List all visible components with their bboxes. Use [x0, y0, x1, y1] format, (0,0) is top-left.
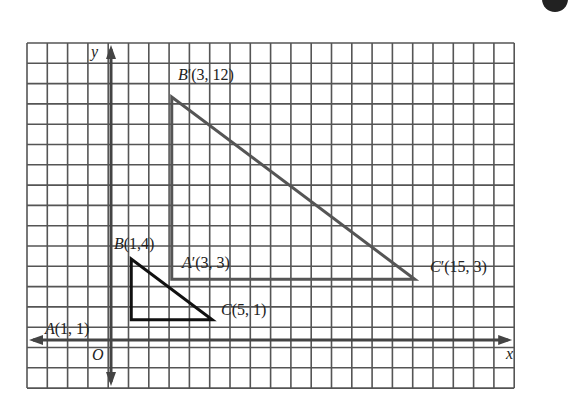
vertex-label-c: C(5, 1): [221, 302, 266, 318]
origin-label: O: [92, 347, 104, 363]
vertex-label-a: A(1, 1): [45, 321, 89, 337]
x-axis-label: x: [506, 346, 513, 362]
x-axis-arrow-left-icon: [29, 335, 43, 345]
y-axis-label: y: [91, 44, 98, 60]
vertex-label-b-prime: B′(3, 12): [178, 67, 234, 83]
vertex-label-a-prime: A′(3, 3): [182, 255, 230, 271]
vertex-label-b: B(1,4): [114, 236, 154, 252]
vertex-label-c-prime: C′(15, 3): [430, 259, 487, 275]
x-axis-arrow-right-icon: [498, 335, 512, 345]
